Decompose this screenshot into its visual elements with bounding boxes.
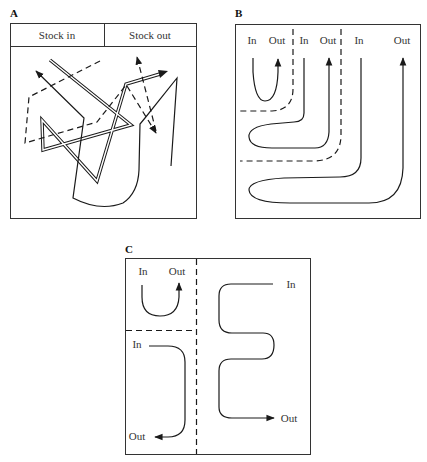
c-zone1-flow — [142, 283, 179, 316]
panel-c-frame — [126, 259, 311, 455]
c-zone2-out-label: Out — [129, 430, 146, 442]
b-zone3-in-label: In — [354, 34, 364, 46]
stock-in-label: Stock in — [39, 29, 76, 41]
b-zone1-in-label: In — [247, 34, 257, 46]
c-zone3-flow — [219, 284, 274, 418]
c-zone1-in-label: In — [138, 265, 148, 277]
b-zone3-out-label: Out — [394, 34, 411, 46]
b-zone3-flow — [249, 58, 403, 203]
panel-b: B In Out In Out In Out — [235, 7, 421, 219]
b-zone1-flow — [253, 58, 278, 101]
panel-a: A Stock in Stock out — [10, 7, 197, 219]
double-line-route — [42, 60, 168, 181]
panel-a-label: A — [10, 7, 18, 19]
b-dashed-boundary-2 — [240, 29, 341, 161]
c-zone3-in-label: In — [286, 278, 296, 290]
b-zone2-out-label: Out — [320, 34, 337, 46]
c-zone3-out-label: Out — [281, 412, 298, 424]
panel-c: C In Out In Out In Out — [125, 243, 311, 455]
figure-canvas: A Stock in Stock out B In Out In Out In … — [0, 0, 427, 462]
stock-out-label: Stock out — [129, 29, 171, 41]
panel-c-label: C — [125, 243, 133, 255]
dashed-arrow-up — [137, 57, 156, 131]
b-zone2-in-label: In — [299, 34, 309, 46]
b-zone1-out-label: Out — [269, 34, 286, 46]
c-zone1-out-label: Out — [169, 265, 186, 277]
arrowhead-icon — [158, 70, 168, 78]
c-zone2-flow — [149, 346, 185, 437]
panel-a-frame — [11, 24, 197, 219]
panel-b-label: B — [235, 7, 243, 19]
c-zone2-in-label: In — [132, 338, 142, 350]
panel-b-frame — [236, 25, 421, 219]
